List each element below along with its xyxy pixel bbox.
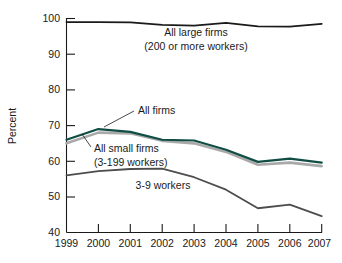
annotation-3-9-workers: 3-9 workers — [136, 179, 191, 191]
chart-svg: Percent 100 90 80 70 60 50 40 — [0, 0, 342, 263]
x-tick-label-2005: 2005 — [246, 237, 270, 249]
y-tick-label-70: 70 — [48, 119, 60, 131]
line-chart-figure: Percent 100 90 80 70 60 50 40 — [0, 0, 342, 263]
annotation-all-large-firms-line1: All large firms — [164, 26, 228, 38]
y-tick-label-50: 50 — [48, 190, 60, 202]
x-tick-label-2006: 2006 — [278, 237, 302, 249]
annotation-all-small-firms-line1: All small firms — [94, 142, 159, 154]
annotation-all-small-firms-line2: (3-199 workers) — [94, 156, 168, 168]
y-axis-title: Percent — [6, 108, 18, 144]
annotation-all-large-firms-line2: (200 or more workers) — [144, 40, 247, 52]
x-tick-label-2007: 2007 — [308, 237, 332, 249]
y-tick-label-100: 100 — [42, 12, 60, 24]
annotation-all-firms: All firms — [138, 104, 175, 116]
x-tick-label-2002: 2002 — [151, 237, 175, 249]
x-tick-label-2001: 2001 — [119, 237, 143, 249]
x-tick-label-1999: 1999 — [55, 237, 79, 249]
x-tick-label-2004: 2004 — [214, 237, 238, 249]
y-tick-label-90: 90 — [48, 48, 60, 60]
y-tick-label-80: 80 — [48, 83, 60, 95]
x-tick-label-2000: 2000 — [87, 237, 111, 249]
x-tick-label-2003: 2003 — [182, 237, 206, 249]
y-tick-label-60: 60 — [48, 155, 60, 167]
